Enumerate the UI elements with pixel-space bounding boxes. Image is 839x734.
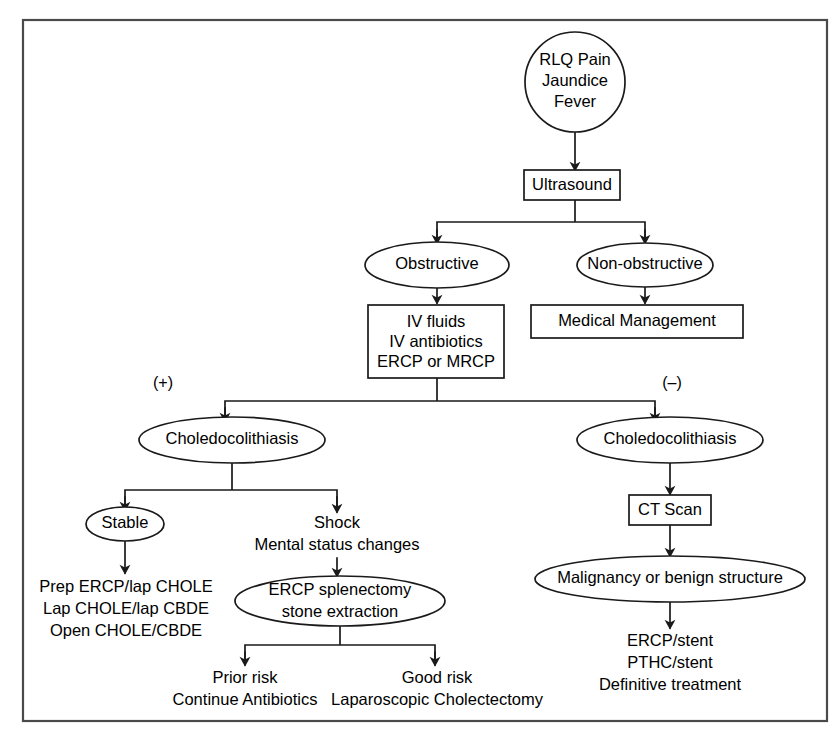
node-obstructive: Obstructive (365, 242, 509, 288)
stable-treatment-line1: Prep ERCP/lap CHOLE (39, 577, 212, 595)
initial-management-line1: IV fluids (407, 312, 466, 330)
presentation-line2: Jaundice (542, 71, 608, 89)
shock-line2: Mental status changes (254, 535, 419, 553)
figure-root: (+) (–) RLQ Pain Jaundice Fever Ultrasou… (0, 0, 839, 734)
presentation-line1: RLQ Pain (539, 50, 611, 68)
node-ct-scan: CT Scan (629, 495, 711, 525)
biliary-algorithm-flowchart: (+) (–) RLQ Pain Jaundice Fever Ultrasou… (0, 0, 839, 734)
initial-management-line2: IV antibiotics (389, 332, 483, 350)
presentation-line3: Fever (554, 92, 597, 110)
node-good-risk: Good risk Laparoscopic Cholectectomy (331, 668, 544, 708)
edge-label-positive: (+) (153, 374, 173, 391)
stable-treatment-line3: Open CHOLE/CBDE (50, 621, 202, 639)
node-definitive-treatment: ERCP/stent PTHC/stent Definitive treatme… (599, 631, 742, 693)
node-shock: Shock Mental status changes (254, 513, 419, 553)
non-obstructive-label: Non-obstructive (587, 254, 703, 272)
prior-risk-line2: Continue Antibiotics (173, 690, 318, 708)
node-choledocolithiasis-positive: Choledocolithiasis (139, 417, 325, 463)
definitive-treatment-line3: Definitive treatment (599, 675, 742, 693)
node-non-obstructive: Non-obstructive (577, 243, 713, 287)
edge-ultrasound-split (437, 199, 645, 240)
node-ultrasound: Ultrasound (524, 170, 620, 200)
shock-line1: Shock (314, 513, 361, 531)
good-risk-line2: Laparoscopic Cholectectomy (331, 690, 544, 708)
choledocolithiasis-negative-label: Choledocolithiasis (604, 429, 737, 447)
initial-management-line3: ERCP or MRCP (377, 352, 495, 370)
node-prior-risk: Prior risk Continue Antibiotics (173, 668, 318, 708)
node-malignancy: Malignancy or benign structure (535, 556, 805, 602)
malignancy-label: Malignancy or benign structure (557, 568, 783, 586)
ultrasound-label: Ultrasound (532, 175, 612, 193)
ercp-splenectomy-line1: ERCP splenectomy (269, 580, 413, 598)
prior-risk-line1: Prior risk (212, 668, 278, 686)
node-stable-treatment: Prep ERCP/lap CHOLE Lap CHOLE/lap CBDE O… (39, 577, 212, 639)
edge-choledocolithiasis-positive-split (125, 463, 337, 506)
edge-label-negative: (–) (662, 374, 682, 391)
edge-ercp-splenectomy-split (245, 626, 435, 661)
choledocolithiasis-positive-label: Choledocolithiasis (166, 429, 299, 447)
obstructive-label: Obstructive (395, 254, 478, 272)
ct-scan-label: CT Scan (638, 500, 702, 518)
stable-label: Stable (102, 513, 149, 531)
medical-management-label: Medical Management (558, 311, 716, 329)
node-presentation: RLQ Pain Jaundice Fever (525, 32, 625, 132)
node-medical-management: Medical Management (531, 305, 743, 338)
ercp-splenectomy-line2: stone extraction (282, 602, 398, 620)
stable-treatment-line2: Lap CHOLE/lap CBDE (43, 599, 209, 617)
definitive-treatment-line1: ERCP/stent (627, 631, 714, 649)
definitive-treatment-line2: PTHC/stent (627, 653, 713, 671)
node-choledocolithiasis-negative: Choledocolithiasis (577, 417, 763, 463)
node-initial-management: IV fluids IV antibiotics ERCP or MRCP (368, 305, 504, 378)
edge-initial-management-split (225, 378, 655, 418)
good-risk-line1: Good risk (402, 668, 473, 686)
node-ercp-splenectomy: ERCP splenectomy stone extraction (235, 576, 445, 626)
node-stable: Stable (86, 507, 164, 541)
